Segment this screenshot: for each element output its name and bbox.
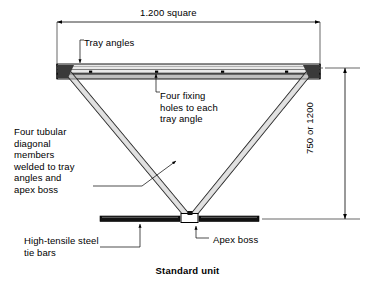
- high-tensile-tie-bar: [100, 216, 259, 222]
- side-dimension-label: 750 or 1200: [304, 102, 316, 154]
- technical-drawing: 1.200 square Tray angles Four fixing hol…: [0, 0, 375, 290]
- leader-tie-bars: [100, 224, 140, 247]
- leader-apex-boss: [196, 226, 209, 238]
- tubular-diagonal-members: [58, 65, 319, 216]
- annotation-tie-bars: High-tensile steel tie bars: [24, 235, 99, 258]
- tie-bar-right: [199, 216, 259, 222]
- annotation-fixing-holes: Four fixing holes to each tray angle: [160, 90, 218, 125]
- fixing-hole-mark: [155, 71, 158, 73]
- fixing-hole-mark: [221, 71, 224, 73]
- annotation-tubular-members: Four tubular diagonal members welded to …: [14, 126, 75, 195]
- fixing-hole-mark: [89, 71, 92, 73]
- annotation-apex-boss: Apex boss: [213, 234, 258, 246]
- tie-bar-left: [100, 216, 180, 222]
- diagonal-right-fill: [190, 66, 318, 216]
- tray-web: [57, 64, 320, 74]
- top-dimension-label: 1.200 square: [140, 7, 197, 19]
- annotation-tray-angles: Tray angles: [84, 37, 134, 49]
- apex-boss-node: [188, 211, 193, 215]
- leader-tubular-members: [93, 161, 176, 186]
- tray-angle-beam: [57, 64, 320, 79]
- diagonal-left-fill: [59, 66, 190, 216]
- fixing-hole-mark: [285, 71, 288, 73]
- drawing-caption: Standard unit: [0, 265, 375, 277]
- tray-lower-flange: [57, 74, 320, 79]
